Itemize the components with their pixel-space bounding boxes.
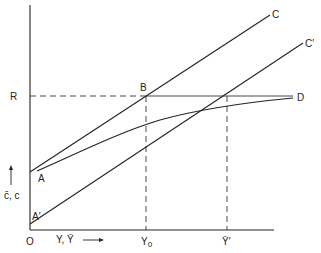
- label-origin: O: [26, 236, 34, 247]
- tick-ybar-prime: Ȳ′: [222, 236, 231, 247]
- line-c-prime: [30, 43, 303, 224]
- up-arrow-icon: [9, 165, 13, 185]
- diagram: R B C C′ D A A′ O Y, Ȳ Y0 Ȳ′ c̄, c: [0, 0, 321, 253]
- right-arrow-icon: [83, 238, 104, 242]
- line-c: [30, 15, 270, 172]
- label-d: D: [297, 92, 304, 103]
- x-axis-label: Y, Ȳ: [56, 234, 74, 245]
- label-c-prime: C′: [305, 38, 314, 49]
- label-a-prime: A′: [32, 211, 41, 222]
- label-r: R: [10, 91, 17, 102]
- label-c: C: [272, 9, 279, 20]
- label-a: A: [38, 173, 45, 184]
- tick-y0: Y0: [141, 236, 153, 249]
- label-b: B: [140, 82, 147, 93]
- y-axis-label: c̄, c: [4, 190, 20, 201]
